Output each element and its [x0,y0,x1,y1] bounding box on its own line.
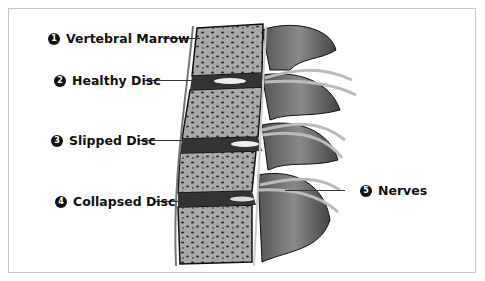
label-text: Healthy Disc [72,73,161,88]
label-collapsed-disc: 4 Collapsed Disc [55,194,175,209]
label-nerves: 5 Nerves [360,183,427,198]
label-vertebral-marrow: 1 Vertebral Marrow [48,31,190,46]
number-badge: 3 [51,135,63,147]
label-text: Vertebral Marrow [66,31,190,46]
leader-line [285,190,345,191]
label-slipped-disc: 3 Slipped Disc [51,133,156,148]
label-text: Nerves [378,183,427,198]
number-badge: 2 [54,75,66,87]
number-badge: 5 [360,185,372,197]
label-healthy-disc: 2 Healthy Disc [54,73,161,88]
number-badge: 4 [55,196,67,208]
label-text: Slipped Disc [69,133,156,148]
label-text: Collapsed Disc [73,194,175,209]
number-badge: 1 [48,33,60,45]
